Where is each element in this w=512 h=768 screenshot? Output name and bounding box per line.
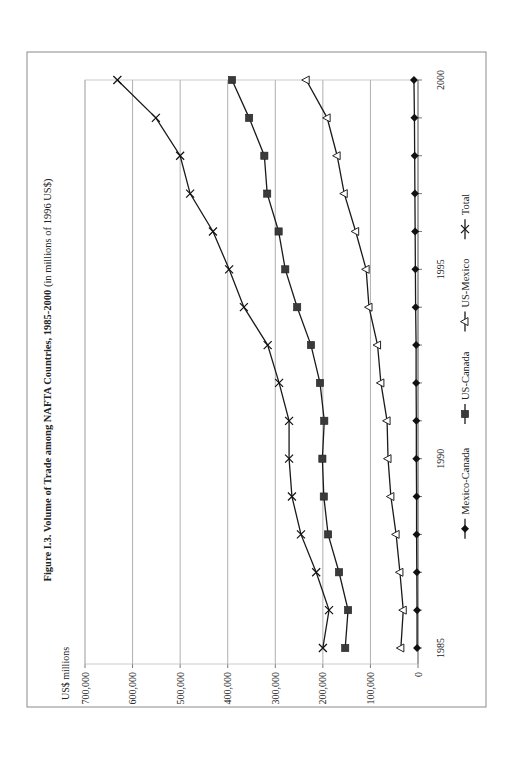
series-us-canada	[228, 76, 351, 651]
legend-label: Mexico-Canada	[460, 447, 471, 514]
y-axis-unit-label: US$ millions	[60, 647, 71, 700]
y-tick-label: 200,000	[317, 672, 328, 705]
diamond-marker	[461, 525, 469, 533]
x-marker	[297, 530, 305, 538]
square-marker	[261, 152, 268, 159]
square-marker	[461, 410, 468, 417]
x-marker	[186, 190, 194, 198]
x-marker	[240, 303, 248, 311]
x-marker	[312, 568, 320, 576]
legend-item-mexico-canada: Mexico-Canada	[460, 447, 471, 538]
diamond-marker	[410, 114, 418, 122]
legend-label: US-Mexico	[460, 259, 471, 308]
y-tick-label: 400,000	[222, 672, 233, 705]
diamond-marker	[412, 379, 420, 387]
square-marker	[324, 531, 331, 538]
legend-label: Total	[460, 194, 471, 216]
figure-title: Figure I.3. Volume of Trade among NAFTA …	[42, 178, 54, 581]
square-marker	[342, 644, 349, 651]
series-mexico-canada	[410, 76, 421, 652]
y-tick-label: 100,000	[365, 672, 376, 705]
square-marker	[316, 379, 323, 386]
square-marker	[307, 341, 314, 348]
series-us-mexico	[302, 76, 407, 652]
square-marker	[321, 417, 328, 424]
x-marker	[152, 114, 160, 122]
square-marker	[335, 569, 342, 576]
data-series	[113, 76, 421, 652]
plot-area	[85, 80, 418, 664]
square-marker	[344, 607, 351, 614]
diamond-marker	[411, 152, 419, 160]
y-tick-label: 0	[413, 672, 424, 677]
x-tick-label: 2000	[435, 70, 446, 90]
x-tick-label: 1990	[435, 449, 446, 469]
x-axis-tick-labels: 1985199019952000	[418, 70, 446, 658]
series-line	[232, 80, 348, 648]
legend-item-us-mexico: US-Mexico	[460, 259, 471, 332]
x-tick-label: 1995	[435, 259, 446, 279]
diamond-marker	[413, 644, 421, 652]
triangle-marker	[461, 318, 469, 326]
triangle-marker	[396, 644, 404, 652]
diamond-marker	[413, 606, 421, 614]
legend-item-total: Total	[460, 194, 471, 240]
gridlines	[85, 80, 418, 668]
series-total	[113, 76, 333, 652]
series-line	[306, 80, 403, 648]
square-marker	[319, 455, 326, 462]
x-marker	[209, 227, 217, 235]
chart: Figure I.3. Volume of Trade among NAFTA …	[0, 0, 512, 768]
square-marker	[264, 190, 271, 197]
x-marker	[225, 265, 233, 273]
diamond-marker	[413, 530, 421, 538]
diamond-marker	[412, 455, 420, 463]
series-line	[414, 80, 417, 648]
diamond-marker	[412, 417, 420, 425]
square-marker	[294, 304, 301, 311]
diamond-marker	[410, 76, 418, 84]
y-tick-label: 600,000	[127, 672, 138, 705]
diamond-marker	[413, 493, 421, 501]
legend-item-us-canada: US-Canada	[460, 351, 471, 424]
legend-label: US-Canada	[460, 351, 471, 400]
y-axis-tick-labels: 0100,000200,000300,000400,000500,000600,…	[80, 672, 424, 705]
square-marker	[282, 266, 289, 273]
series-line	[117, 80, 329, 648]
x-marker	[275, 379, 283, 387]
triangle-marker	[323, 114, 331, 122]
square-marker	[228, 76, 235, 83]
y-tick-label: 500,000	[175, 672, 186, 705]
legend: Mexico-CanadaUS-CanadaUS-MexicoTotal	[460, 194, 471, 539]
square-marker	[246, 114, 253, 121]
y-tick-label: 300,000	[270, 672, 281, 705]
square-marker	[320, 493, 327, 500]
y-tick-label: 700,000	[80, 672, 91, 705]
diamond-marker	[413, 568, 421, 576]
diamond-marker	[412, 341, 420, 349]
x-tick-label: 1985	[435, 638, 446, 658]
x-marker	[264, 341, 272, 349]
triangle-marker	[302, 76, 310, 84]
square-marker	[275, 228, 282, 235]
triangle-marker	[384, 455, 392, 463]
